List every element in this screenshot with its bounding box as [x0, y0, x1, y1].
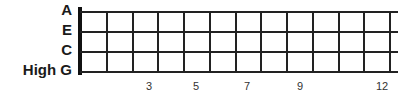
string-label: C: [2, 42, 72, 58]
string-line: [80, 71, 398, 73]
fret-line: [363, 11, 365, 72]
string-line: [80, 11, 398, 13]
fret-number: 5: [186, 80, 206, 92]
fret-line: [157, 11, 159, 72]
fret-line: [235, 11, 237, 72]
fret-number: 9: [290, 80, 310, 92]
fret-line: [286, 11, 288, 72]
fret-line: [132, 11, 134, 72]
fret-line: [312, 11, 314, 72]
fret-line: [106, 11, 108, 72]
nut: [78, 7, 82, 75]
fret-number: 3: [139, 80, 159, 92]
string-line: [80, 31, 398, 33]
string-line: [80, 51, 398, 53]
string-label: E: [2, 22, 72, 38]
string-label: A: [2, 2, 72, 18]
fret-line: [260, 11, 262, 72]
fret-line: [389, 11, 391, 72]
fret-number: 12: [372, 80, 392, 92]
fret-line: [338, 11, 340, 72]
fret-line: [183, 11, 185, 72]
fret-number: 7: [237, 80, 257, 92]
string-label: High G: [2, 62, 72, 78]
fret-line: [209, 11, 211, 72]
